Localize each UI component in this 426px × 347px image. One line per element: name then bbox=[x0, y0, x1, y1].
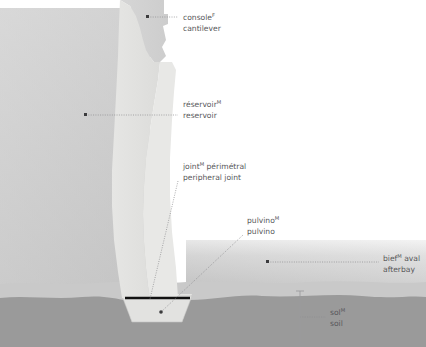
pulvino-block bbox=[122, 296, 192, 322]
label-afterbay-en: afterbay bbox=[383, 265, 415, 274]
label-afterbay-fr: biefM aval bbox=[383, 253, 420, 263]
diagram-canvas: consoleF cantilever réservoirM reservoir… bbox=[0, 0, 426, 347]
dot-pulvino bbox=[159, 310, 163, 314]
label-joint-en: peripheral joint bbox=[183, 173, 241, 182]
dot-console bbox=[146, 15, 149, 18]
label-console-en: cantilever bbox=[183, 24, 222, 33]
label-pulvino-fr: pulvinoM bbox=[247, 215, 279, 225]
label-joint-fr: jointM périmétral bbox=[182, 161, 246, 171]
label-console-fr: consoleF bbox=[183, 12, 215, 22]
dot-reservoir bbox=[84, 113, 87, 116]
label-reservoir-fr: réservoirM bbox=[183, 99, 221, 109]
dot-afterbay bbox=[266, 260, 269, 263]
label-reservoir-en: reservoir bbox=[183, 111, 218, 120]
soil-lower-layer bbox=[0, 294, 426, 347]
cross-section-svg: consoleF cantilever réservoirM reservoir… bbox=[0, 0, 426, 347]
label-pulvino-en: pulvino bbox=[247, 227, 275, 236]
label-soil-en: soil bbox=[330, 319, 343, 328]
